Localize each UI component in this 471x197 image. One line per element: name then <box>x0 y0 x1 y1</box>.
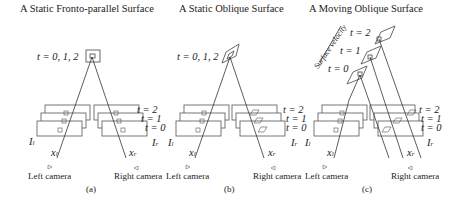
left-camera-icon-b <box>186 165 190 169</box>
right-camera-icon-c <box>408 166 412 170</box>
panel-c-rays <box>334 39 421 158</box>
panel-b-right-point: xr <box>268 148 275 159</box>
panel-c-caption: (c) <box>362 185 372 194</box>
panel-a-title: A Static Fronto-parallel Surface <box>20 4 154 15</box>
panel-b-title: A Static Oblique Surface <box>179 4 284 15</box>
panel-b-right-camera-label: Right camera <box>253 172 301 181</box>
panel-c-surface-t2: t = 2 <box>350 28 371 39</box>
panel-a-right-point: xr <box>129 148 136 159</box>
panel-b-left-frames <box>176 105 229 136</box>
right-camera-icon-a <box>134 166 138 170</box>
panel-a-frame-t0: t = 0 <box>145 123 166 134</box>
panel-c-left-point: xl <box>327 148 334 159</box>
panel-a-right-image-label: Ir <box>152 138 158 149</box>
panel-c-left-camera-label: Left camera <box>305 172 348 181</box>
panel-a-caption: (a) <box>86 185 96 194</box>
panel-c-right-camera-label: Right camera <box>391 172 439 181</box>
panel-b-right-image-label: Ir <box>291 138 297 149</box>
panel-b-left-image-label: Il <box>168 138 173 149</box>
stereo-figure: A Static Fronto-parallel Surface t = 0, … <box>0 0 471 197</box>
panel-c-frame-t0: t = 0 <box>421 123 442 134</box>
panel-a-left-frames <box>37 105 90 136</box>
panel-c-surface-t1: t = 1 <box>340 46 361 57</box>
panel-c-surface-t0: t = 0 <box>328 64 349 75</box>
camera-icons <box>48 165 412 170</box>
panel-a-left-camera-label: Left camera <box>28 172 71 181</box>
panel-c-right-image-label: Ir <box>427 138 433 149</box>
right-camera-icon-b <box>271 166 275 170</box>
panel-b-left-camera-label: Left camera <box>166 172 209 181</box>
panel-a-time-label: t = 0, 1, 2 <box>37 52 79 63</box>
panel-b-surface <box>222 44 239 63</box>
panel-a-right-camera-label: Right camera <box>114 172 162 181</box>
panel-c-right-frames <box>370 105 423 136</box>
panel-b-frame-t0: t = 0 <box>286 123 307 134</box>
panel-b-left-point: xl <box>189 148 196 159</box>
panel-a-left-image-label: Il <box>29 137 34 148</box>
left-camera-icon-c <box>323 165 327 169</box>
panel-b-time-label: t = 0, 1, 2 <box>177 52 219 63</box>
panel-c-title: A Moving Oblique Surface <box>309 4 423 15</box>
left-camera-icon-a <box>48 165 52 169</box>
panel-c-right-point: xr <box>407 148 414 159</box>
panel-b-caption: (b) <box>224 185 235 194</box>
panel-a-left-point: xl <box>51 148 58 159</box>
figure-graphics <box>0 0 471 197</box>
panel-c-left-image-label: Il <box>305 138 310 149</box>
